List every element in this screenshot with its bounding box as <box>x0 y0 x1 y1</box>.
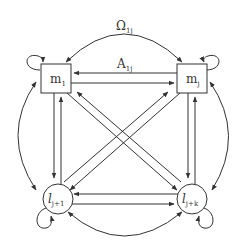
left-curve-edge <box>18 82 36 190</box>
label-a: A1j <box>116 57 132 73</box>
network-diagram: m1 mj lj+1 lj+k Ω1j A1j <box>0 0 247 246</box>
label-omega: Ω1j <box>116 19 133 35</box>
edge-mj-to-lj1 <box>70 93 180 190</box>
right-curve-edge <box>210 82 229 190</box>
edge-m1-to-ljk <box>67 93 177 190</box>
bottom-curve-edge <box>68 212 182 236</box>
